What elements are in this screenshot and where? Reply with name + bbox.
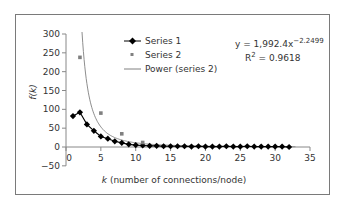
diamond-marker-icon: [209, 144, 215, 150]
legend-label: Series 2: [145, 50, 181, 60]
square-marker-icon: [131, 53, 134, 56]
diamond-marker-icon: [154, 143, 160, 149]
x-axis-label-rest: (number of connections/node): [107, 175, 246, 185]
diamond-marker-icon: [244, 143, 250, 149]
diamond-marker-icon: [279, 144, 285, 150]
y-tick-label: 150: [43, 86, 60, 96]
x-tick-label: 15: [165, 153, 176, 163]
square-marker-icon: [141, 141, 145, 145]
power-curve-line: [82, 32, 295, 147]
y-tick-label: 0: [54, 142, 60, 152]
diamond-marker-icon: [230, 144, 236, 150]
diamond-marker-icon: [286, 144, 292, 150]
diamond-marker-icon: [216, 144, 222, 150]
diamond-marker-icon: [129, 37, 136, 44]
diamond-marker-icon: [195, 143, 201, 149]
x-tick-label: 20: [200, 153, 212, 163]
square-marker-icon: [78, 56, 82, 60]
svg-text:k (number of connections/node): k (number of connections/node): [102, 175, 246, 185]
series-1-line: [73, 112, 289, 147]
x-tick-label: 35: [304, 153, 315, 163]
diamond-marker-icon: [105, 136, 111, 142]
y-tick-label: −50: [41, 161, 60, 171]
x-tick-label: 0: [66, 153, 72, 163]
legend-label: Power (series 2): [145, 64, 217, 74]
diamond-marker-icon: [272, 144, 278, 150]
square-marker-icon: [99, 111, 103, 115]
legend-item-series-2: Series 2: [131, 50, 182, 60]
legend-item-series-1: Series 1: [124, 36, 181, 46]
x-tick-label: 30: [269, 153, 281, 163]
equation-text: y = 1,992.4x−2.2499: [235, 37, 324, 49]
x-tick-label: 25: [235, 153, 246, 163]
diamond-marker-icon: [181, 143, 187, 149]
diamond-marker-icon: [112, 138, 118, 144]
diamond-marker-icon: [251, 144, 257, 150]
legend-label: Series 1: [145, 36, 181, 46]
diamond-marker-icon: [70, 113, 76, 119]
y-tick-label: 300: [43, 29, 60, 39]
chart-plot: −5005010015020025030005101520253035 f(k)…: [0, 0, 347, 204]
y-tick-label: 250: [43, 48, 60, 58]
y-tick-label: 100: [43, 104, 60, 114]
square-marker-icon: [120, 132, 124, 136]
diamond-marker-icon: [174, 143, 180, 149]
legend: Series 1 Series 2 Power (series 2): [124, 36, 217, 74]
legend-item-power: Power (series 2): [124, 64, 217, 74]
y-axis-label: f(k): [28, 84, 38, 99]
x-tick-label: 10: [130, 153, 142, 163]
diamond-marker-icon: [265, 144, 271, 150]
x-tick-label: 5: [98, 153, 104, 163]
diamond-marker-icon: [160, 143, 166, 149]
diamond-marker-icon: [77, 109, 83, 115]
y-tick-label: 200: [43, 67, 60, 77]
r-squared-text: R2 = 0.9618: [245, 51, 301, 63]
diamond-marker-icon: [188, 144, 194, 150]
trendline-equation: y = 1,992.4x−2.2499 R2 = 0.9618: [235, 37, 324, 63]
power-trendline: [82, 32, 295, 147]
y-tick-label: 50: [49, 123, 61, 133]
diamond-marker-icon: [202, 144, 208, 150]
x-axis-title: k (number of connections/node): [102, 175, 246, 185]
diamond-marker-icon: [258, 144, 264, 150]
diamond-marker-icon: [223, 143, 229, 149]
diamond-marker-icon: [167, 143, 173, 149]
y-axis-title: f(k): [28, 84, 38, 99]
diamond-marker-icon: [237, 144, 243, 150]
